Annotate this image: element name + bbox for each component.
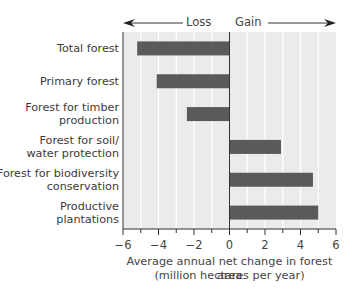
category-label: Forest for soil/water protection — [26, 134, 119, 160]
x-tick-label: −2 — [186, 238, 203, 252]
x-tick-label: 6 — [332, 238, 339, 252]
x-tick-label: −4 — [150, 238, 167, 252]
bar — [230, 206, 319, 220]
x-tick-label: 0 — [226, 238, 233, 252]
bar — [187, 107, 230, 121]
x-axis-subtitle: (million hectares per year) — [123, 269, 336, 283]
x-tick-label: −6 — [115, 238, 132, 252]
category-label: Primary forest — [40, 75, 119, 88]
loss-label: Loss — [184, 15, 213, 29]
category-label: Forest for timberproduction — [25, 101, 119, 127]
category-label: Productiveplantations — [56, 200, 119, 226]
x-tick-label: 4 — [297, 238, 304, 252]
bar — [230, 173, 313, 187]
bar — [157, 74, 230, 88]
bar — [137, 41, 229, 55]
category-label: Forest for biodiversityconservation — [0, 167, 119, 193]
x-tick-label: 2 — [261, 238, 268, 252]
category-label: Total forest — [57, 42, 119, 55]
gain-label: Gain — [233, 15, 263, 29]
forest-change-chart: Total forestPrimary forestForest for tim… — [0, 0, 357, 292]
bar — [230, 140, 281, 154]
